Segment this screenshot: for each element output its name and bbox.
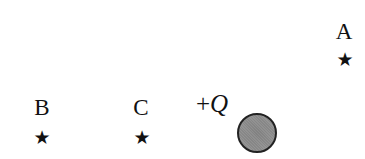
point-b-star-icon: ★ [33,128,50,147]
point-a-label: A [336,20,353,43]
point-c-star-icon: ★ [133,128,150,147]
point-a-star-icon: ★ [336,50,353,69]
charge-sign: + [196,90,210,117]
charge-symbol: Q [210,90,228,117]
charge-sphere-icon [237,113,277,153]
point-b-label: B [34,96,49,119]
point-c-label: C [133,96,148,119]
charge-label: +Q [196,91,228,116]
